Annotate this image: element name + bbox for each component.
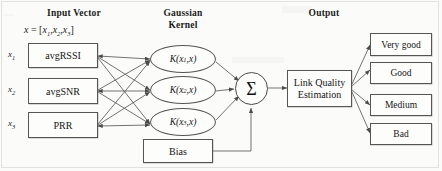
input-node-prr[interactable]: PRR <box>28 112 98 138</box>
lqe-line-2: Estimation <box>298 89 341 100</box>
output-node-good[interactable]: Good <box>370 62 432 84</box>
input-var-1-sub: 1 <box>12 54 15 61</box>
kernel-3-close: ) <box>193 117 196 127</box>
header-gaussian-kernel-line1: Gaussian <box>148 8 218 18</box>
formula-close-bracket: ] <box>71 24 74 35</box>
input-var-label-2: x2 <box>8 84 15 96</box>
lqe-line-1: Link Quality <box>294 77 345 88</box>
formula-equals: = <box>31 24 37 35</box>
kernel-1-close: ) <box>193 54 196 64</box>
output-node-bad[interactable]: Bad <box>370 123 432 145</box>
kernel-node-3[interactable]: K(x3,x) <box>150 108 216 136</box>
kernel-node-2[interactable]: K(x2,x) <box>150 76 216 104</box>
input-var-label-3: x3 <box>8 118 15 130</box>
link-quality-estimation-block[interactable]: Link Quality Estimation <box>287 70 352 107</box>
input-var-3-sub: 3 <box>12 123 15 130</box>
header-output: Output <box>272 8 376 18</box>
summation-node[interactable]: Σ <box>235 72 268 105</box>
diagram-canvas: Input Vector Gaussian Kernel Output x = … <box>0 0 442 171</box>
header-input-vector: Input Vector <box>22 8 126 18</box>
kernel-node-1[interactable]: K(x1,x) <box>150 45 216 73</box>
input-var-label-1: x1 <box>8 49 15 61</box>
output-node-very-good[interactable]: Very good <box>370 33 432 56</box>
input-node-avgrssi[interactable]: avgRSSI <box>28 43 98 68</box>
kernel-2-close: ) <box>193 85 196 95</box>
input-node-avgsnr[interactable]: avgSNR <box>28 78 98 104</box>
input-vector-formula: x = [x1,x2,x3] <box>24 24 74 37</box>
bias-node[interactable]: Bias <box>143 139 213 163</box>
header-gaussian-kernel-line2: Kernel <box>148 20 218 30</box>
formula-lhs: x <box>24 24 28 35</box>
output-node-medium[interactable]: Medium <box>370 94 432 116</box>
input-var-2-sub: 2 <box>12 89 15 96</box>
